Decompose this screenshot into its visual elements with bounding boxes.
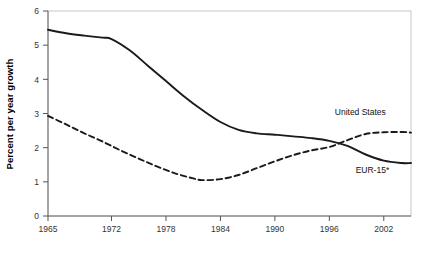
x-tick-label: 1972 [102, 224, 121, 234]
x-axis-ticks: 1965197219781984199019962002 [39, 216, 394, 234]
x-tick-label: 1996 [320, 224, 339, 234]
y-tick-label: 2 [34, 143, 39, 153]
y-tick-label: 0 [34, 211, 39, 221]
series-paths [48, 30, 411, 180]
y-tick-label: 3 [34, 109, 39, 119]
y-axis-title: Percent per year growth [4, 58, 15, 169]
x-tick-label: 1978 [157, 224, 176, 234]
series-label-united-states: United States [335, 107, 386, 117]
series-label-eur-15: EUR-15* [356, 165, 390, 175]
y-tick-label: 6 [34, 6, 39, 16]
y-axis-ticks: 0123456 [34, 6, 48, 221]
series-line-eur-15 [48, 30, 411, 163]
y-tick-label: 1 [34, 177, 39, 187]
x-tick-label: 1965 [39, 224, 58, 234]
y-tick-label: 5 [34, 40, 39, 50]
x-tick-label: 1990 [265, 224, 284, 234]
x-tick-label: 2002 [374, 224, 393, 234]
chart-canvas: 0123456 1965197219781984199019962002 EUR… [0, 0, 432, 258]
x-tick-label: 1984 [211, 224, 230, 234]
y-tick-label: 4 [34, 75, 39, 85]
growth-rate-line-chart: 0123456 1965197219781984199019962002 EUR… [0, 0, 432, 258]
